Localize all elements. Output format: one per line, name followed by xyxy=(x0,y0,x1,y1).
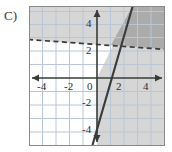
y-tick-label-4: 4 xyxy=(86,18,92,29)
choice-label: C) xyxy=(4,8,17,24)
x-tick-label--2: -2 xyxy=(64,81,73,92)
y-tick-label--2: -2 xyxy=(82,97,91,108)
y-tick-label-2: 2 xyxy=(86,45,92,56)
x-tick-label--4: -4 xyxy=(37,81,46,92)
x-tick-label-2: 2 xyxy=(116,81,122,92)
x-tick-label-0: 0 xyxy=(87,81,93,92)
coordinate-plane: -4 -2 0 2 4 4 2 -2 -4 xyxy=(29,6,165,146)
y-tick-label--4: -4 xyxy=(82,124,91,135)
x-tick-label-4: 4 xyxy=(143,81,149,92)
graph-svg xyxy=(30,7,164,145)
graph-figure: C) xyxy=(0,0,172,152)
